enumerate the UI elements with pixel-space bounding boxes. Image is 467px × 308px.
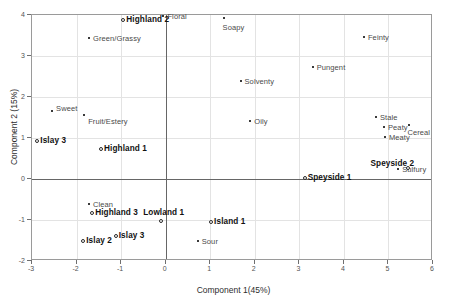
- attribute-data-point: [88, 203, 90, 205]
- attribute-data-point: [408, 124, 410, 126]
- x-axis-tick-label: -1: [117, 265, 123, 272]
- horizontal-zero-axis: [32, 179, 431, 180]
- gridline-vertical: [121, 15, 122, 259]
- attribute-point-label: Floral: [167, 12, 186, 21]
- x-axis-tick: [432, 260, 433, 264]
- attribute-point-label: Sweet: [56, 104, 77, 113]
- attribute-data-point: [384, 136, 386, 138]
- attribute-data-point: [249, 120, 251, 122]
- attribute-point-label: Meaty: [389, 133, 410, 142]
- y-axis-tick-label: 2: [5, 93, 25, 100]
- x-axis-tick: [209, 260, 210, 264]
- attribute-data-point: [88, 37, 90, 39]
- x-axis-tick-label: -2: [72, 265, 78, 272]
- gridline-vertical: [344, 15, 345, 259]
- x-axis-tick-label: 3: [296, 265, 300, 272]
- whisky-data-point: [81, 239, 85, 243]
- x-axis-tick: [254, 260, 255, 264]
- y-axis-tick: [27, 178, 31, 179]
- whisky-point-label: Islay 3: [119, 231, 145, 240]
- x-axis-tick-label: 1: [207, 265, 211, 272]
- whisky-point-label: Speyside 1: [308, 173, 352, 182]
- attribute-data-point: [223, 17, 225, 19]
- y-axis-tick-label: 4: [5, 11, 25, 18]
- whisky-point-label: Islay 2: [86, 236, 112, 245]
- x-axis-tick: [298, 260, 299, 264]
- attribute-point-label: Sour: [202, 237, 218, 246]
- whisky-data-point: [303, 176, 307, 180]
- gridline-vertical: [255, 15, 256, 259]
- y-axis-tick: [27, 260, 31, 261]
- whisky-data-point: [121, 18, 125, 22]
- y-axis-tick: [27, 137, 31, 138]
- x-axis-tick: [387, 260, 388, 264]
- attribute-data-point: [375, 116, 377, 118]
- x-axis-tick-label: -3: [28, 265, 34, 272]
- y-axis-tick: [27, 14, 31, 15]
- x-axis-title: Component 1(45%): [0, 285, 467, 295]
- attribute-data-point: [83, 114, 85, 116]
- scatter-plot-figure: FloralSoapyGreen/GrassyFeintyPungentSolv…: [0, 0, 467, 308]
- whisky-point-label: Highland 2: [126, 15, 169, 24]
- x-axis-tick-label: 6: [430, 265, 434, 272]
- x-axis-tick: [120, 260, 121, 264]
- whisky-point-label: Speyside 2: [370, 159, 414, 168]
- x-axis-tick: [165, 260, 166, 264]
- whisky-data-point: [209, 220, 213, 224]
- whisky-data-point: [90, 211, 94, 215]
- whisky-point-label: Highland 1: [104, 144, 147, 153]
- x-axis-tick: [76, 260, 77, 264]
- x-axis-tick-label: 2: [252, 265, 256, 272]
- plot-area: FloralSoapyGreen/GrassyFeintyPungentSolv…: [31, 14, 432, 260]
- whisky-data-point: [159, 219, 163, 223]
- whisky-point-label: Islay 3: [40, 136, 66, 145]
- gridline-horizontal: [32, 97, 431, 98]
- whisky-point-label: Highland 3: [95, 208, 138, 217]
- y-axis-tick-label: 0: [5, 175, 25, 182]
- attribute-data-point: [383, 126, 385, 128]
- x-axis-tick-label: 0: [163, 265, 167, 272]
- attribute-point-label: Green/Grassy: [93, 34, 141, 43]
- y-axis-tick: [27, 96, 31, 97]
- gridline-horizontal: [32, 56, 431, 57]
- y-axis-tick: [27, 219, 31, 220]
- x-axis-tick: [343, 260, 344, 264]
- whisky-point-label: Island 1: [214, 217, 245, 226]
- gridline-vertical: [77, 15, 78, 259]
- y-axis-tick-label: -2: [5, 257, 25, 264]
- attribute-data-point: [240, 80, 242, 82]
- gridline-horizontal: [32, 138, 431, 139]
- y-axis-tick: [27, 55, 31, 56]
- x-axis-tick-label: 4: [341, 265, 345, 272]
- gridline-vertical: [299, 15, 300, 259]
- attribute-point-label: Soapy: [223, 23, 245, 32]
- attribute-point-label: Peaty: [388, 123, 408, 132]
- whisky-point-label: Lowland 1: [143, 208, 184, 217]
- x-axis-tick: [31, 260, 32, 264]
- vertical-zero-axis: [166, 15, 167, 259]
- whisky-data-point: [35, 139, 39, 143]
- attribute-point-label: Oily: [254, 117, 267, 126]
- y-axis-tick-label: -1: [5, 216, 25, 223]
- attribute-point-label: Fruit/Estery: [88, 117, 128, 126]
- attribute-point-label: Pungent: [317, 63, 346, 72]
- whisky-data-point: [114, 234, 118, 238]
- whisky-data-point: [99, 147, 103, 151]
- attribute-data-point: [197, 240, 199, 242]
- y-axis-tick-label: 1: [5, 134, 25, 141]
- attribute-data-point: [363, 36, 365, 38]
- attribute-point-label: Cereal: [407, 128, 430, 137]
- x-axis-tick-label: 5: [385, 265, 389, 272]
- attribute-point-label: Feinty: [368, 33, 389, 42]
- attribute-point-label: Solventy: [245, 77, 275, 86]
- attribute-data-point: [51, 110, 53, 112]
- attribute-point-label: Stale: [380, 113, 398, 122]
- attribute-data-point: [397, 168, 399, 170]
- attribute-data-point: [312, 66, 314, 68]
- y-axis-tick-label: 3: [5, 52, 25, 59]
